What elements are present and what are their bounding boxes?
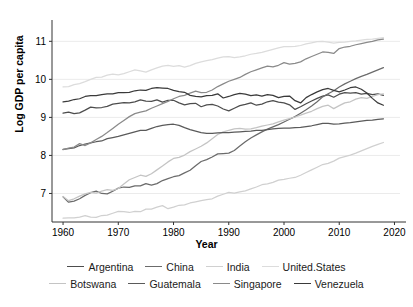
legend-item-label: China <box>166 261 193 273</box>
legend-item-united-states[interactable]: United.States <box>262 261 346 273</box>
legend-item-label: Guatemala <box>149 278 200 290</box>
legend-item-label: Argentina <box>88 261 133 273</box>
legend-item-label: Singapore <box>234 278 282 290</box>
series-lines <box>63 38 383 219</box>
svg-text:1990: 1990 <box>218 227 241 238</box>
legend-swatch-icon <box>206 266 223 267</box>
svg-text:8: 8 <box>40 150 46 161</box>
legend-item-china[interactable]: China <box>145 261 193 273</box>
y-tick-labels: 7891011 <box>35 36 47 199</box>
legend-item-label: United.States <box>283 261 346 273</box>
svg-text:1980: 1980 <box>162 227 185 238</box>
legend-item-india[interactable]: India <box>206 261 250 273</box>
legend-row-2: BotswanaGuatemalaSingaporeVenezuela <box>0 275 413 292</box>
legend-swatch-icon <box>67 266 84 267</box>
legend-item-label: Botswana <box>70 278 116 290</box>
legend-item-singapore[interactable]: Singapore <box>213 278 282 290</box>
svg-text:7: 7 <box>40 188 46 199</box>
legend-item-argentina[interactable]: Argentina <box>67 261 133 273</box>
legend-swatch-icon <box>49 283 66 284</box>
legend-item-guatemala[interactable]: Guatemala <box>128 278 200 290</box>
svg-text:2000: 2000 <box>273 227 296 238</box>
line-chart-svg: 7891011 1960197019801990200020102020 <box>0 0 413 252</box>
svg-text:2020: 2020 <box>383 227 406 238</box>
y-axis-label: Log GDP per capita <box>13 29 25 139</box>
svg-text:10: 10 <box>35 74 47 85</box>
svg-text:2010: 2010 <box>328 227 351 238</box>
plot-area: 7891011 1960197019801990200020102020 Log… <box>0 0 413 252</box>
legend-swatch-icon <box>294 283 311 284</box>
chart-root: 7891011 1960197019801990200020102020 Log… <box>0 0 413 307</box>
x-tick-labels: 1960197019801990200020102020 <box>52 227 406 238</box>
legend-item-venezuela[interactable]: Venezuela <box>294 278 364 290</box>
legend-swatch-icon <box>128 283 145 284</box>
x-axis-label: Year <box>0 238 413 250</box>
legend: ArgentinaChinaIndiaUnited.States Botswan… <box>0 258 413 292</box>
svg-text:9: 9 <box>40 112 46 123</box>
legend-swatch-icon <box>145 266 162 267</box>
legend-swatch-icon <box>213 283 230 284</box>
svg-text:11: 11 <box>36 36 47 47</box>
gridlines <box>52 41 400 193</box>
legend-item-botswana[interactable]: Botswana <box>49 278 116 290</box>
legend-swatch-icon <box>262 266 279 267</box>
legend-item-label: India <box>227 261 250 273</box>
svg-text:1960: 1960 <box>52 227 75 238</box>
legend-row-1: ArgentinaChinaIndiaUnited.States <box>0 258 413 275</box>
svg-text:1970: 1970 <box>107 227 130 238</box>
legend-item-label: Venezuela <box>315 278 364 290</box>
